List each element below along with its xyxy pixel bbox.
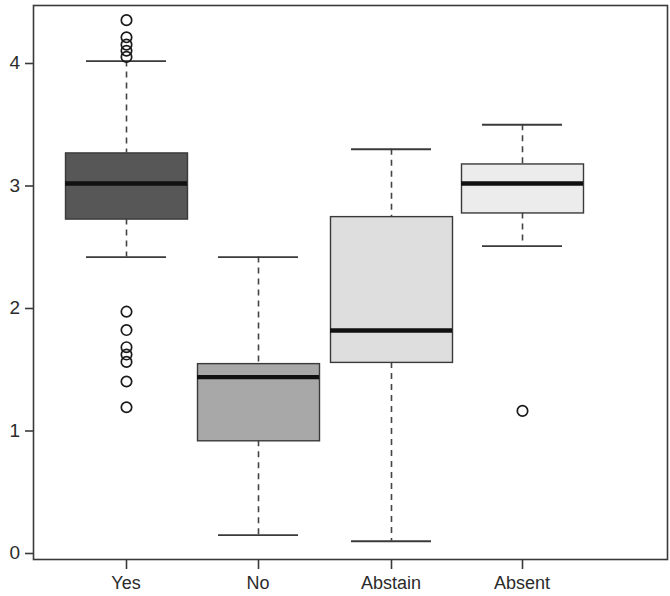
x-tick-label-absent: Absent xyxy=(494,573,550,593)
boxplot-canvas: 01234 YesNoAbstainAbsent xyxy=(0,0,670,596)
y-axis-ticks xyxy=(25,64,34,554)
y-tick-label: 3 xyxy=(9,175,20,196)
y-tick-label: 2 xyxy=(9,297,20,318)
y-axis-tick-labels: 01234 xyxy=(9,52,20,563)
box-body xyxy=(331,217,453,363)
x-tick-label-abstain: Abstain xyxy=(361,573,421,593)
x-tick-label-no: No xyxy=(246,573,269,593)
box-body xyxy=(66,153,188,219)
y-tick-label: 4 xyxy=(9,52,20,73)
box-body xyxy=(462,164,584,213)
x-axis-tick-labels: YesNoAbstainAbsent xyxy=(111,573,550,593)
y-tick-label: 0 xyxy=(9,542,20,563)
x-tick-label-yes: Yes xyxy=(111,573,140,593)
boxplot-figure: 01234 YesNoAbstainAbsent xyxy=(0,0,670,596)
x-axis-ticks xyxy=(127,560,523,569)
y-tick-label: 1 xyxy=(9,420,20,441)
